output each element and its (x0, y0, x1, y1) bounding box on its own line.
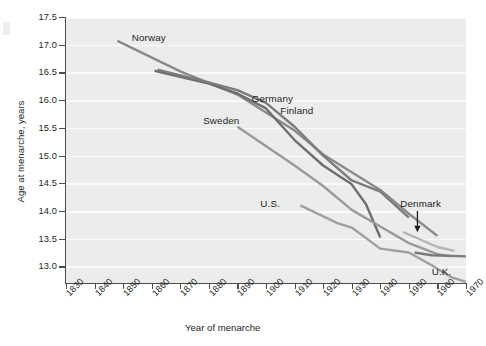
series-label-norway: Norway (132, 32, 166, 43)
y-tick (59, 156, 66, 157)
denmark-arrow-head (414, 226, 420, 233)
series-line-uk (415, 253, 466, 257)
y-tick (59, 100, 66, 101)
y-tick (59, 128, 66, 129)
series-line-finland (157, 70, 408, 218)
series-label-germany: Germany (252, 93, 293, 104)
y-tick (59, 211, 66, 212)
series-label-denmark: Denmark (400, 198, 441, 209)
y-tick (59, 239, 66, 240)
y-tick (59, 266, 66, 267)
y-tick (59, 17, 66, 18)
series-line-sweden (237, 127, 451, 257)
series-label-sweden: Sweden (203, 115, 239, 126)
y-tick (59, 183, 66, 184)
series-line-denmark (403, 232, 454, 251)
series-label-uk: U.K. (432, 266, 452, 277)
y-tick (59, 72, 66, 73)
y-tick (59, 45, 66, 46)
series-label-us: U.S. (260, 198, 280, 209)
series-label-finland: Finland (280, 105, 313, 116)
